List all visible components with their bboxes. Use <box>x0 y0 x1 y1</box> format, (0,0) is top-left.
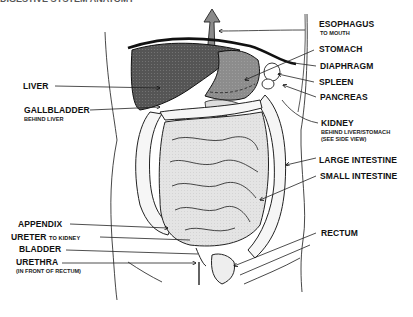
label-ureter-text: URETER <box>11 232 47 242</box>
label-diaphragm: DIAPHRAGM <box>320 62 373 71</box>
label-rectum: RECTUM <box>321 229 358 238</box>
label-spleen: SPLEEN <box>319 78 354 87</box>
label-gallbladder: GALLBLADDER <box>24 106 90 115</box>
label-liver: LIVER <box>23 82 49 91</box>
rectum-shape <box>211 254 234 284</box>
label-stomach: STOMACH <box>319 45 363 54</box>
label-kidney-note-2: (SEE SIDE VIEW) <box>321 136 366 142</box>
label-large-intestine: LARGE INTESTINE <box>319 156 397 165</box>
label-small-intestine: SMALL INTESTINE <box>320 172 397 181</box>
label-pancreas: PANCREAS <box>320 93 368 102</box>
label-urethra-note: (IN FRONT OF RECTUM) <box>16 268 81 274</box>
label-esophagus-note: TO MOUTH <box>320 30 350 36</box>
label-urethra: URETHRA <box>16 258 58 267</box>
bladder-shape <box>196 248 206 266</box>
label-esophagus: ESOPHAGUS <box>319 20 374 29</box>
label-bladder: BLADDER <box>19 245 61 254</box>
label-appendix: APPENDIX <box>18 220 62 229</box>
label-kidney: KIDNEY <box>321 119 354 128</box>
label-ureter: URETER TO KIDNEY <box>11 233 80 242</box>
label-gallbladder-note: BEHIND LIVER <box>24 116 63 122</box>
label-ureter-note: TO KIDNEY <box>49 235 80 241</box>
small-intestine-shape <box>159 112 268 246</box>
label-kidney-note: BEHIND LIVER/STOMACH <box>321 129 390 135</box>
spleen-shape <box>262 63 280 89</box>
